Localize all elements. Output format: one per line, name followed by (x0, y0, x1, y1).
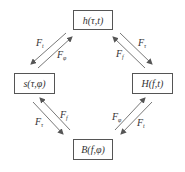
label-sub: φ (118, 117, 121, 123)
label-sub: τ (41, 122, 43, 128)
label-top-right-inner: Ff (116, 49, 124, 60)
label-sub: t (143, 123, 145, 129)
label-bottom-right-outer: Ft (137, 118, 145, 129)
node-H-f-t: H(f,t) (132, 73, 173, 94)
label-sub: τ (144, 43, 146, 49)
label-bottom-left-outer: Fτ (35, 117, 43, 128)
node-s-tau-phi: s(τ,φ) (14, 73, 55, 94)
label-top-left-inner: Fφ (57, 50, 66, 61)
label-sub: f (66, 115, 68, 121)
label-top-left-outer: Ft (36, 38, 44, 49)
node-B-f-phi: B(f,φ) (73, 139, 113, 160)
node-B-label: B(f,φ) (81, 144, 105, 155)
label-sub: t (42, 43, 44, 49)
node-h-tau-t: h(τ,t) (73, 10, 113, 30)
label-top-right-outer: Fτ (138, 38, 146, 49)
label-sub: f (122, 54, 124, 60)
node-h-label: h(τ,t) (83, 15, 104, 26)
node-H-label: H(f,t) (142, 78, 164, 89)
label-sub: φ (63, 55, 66, 61)
label-bottom-left-inner: Ff (60, 110, 68, 121)
label-bottom-right-inner: Fφ (112, 112, 121, 123)
node-s-label: s(τ,φ) (23, 78, 45, 89)
